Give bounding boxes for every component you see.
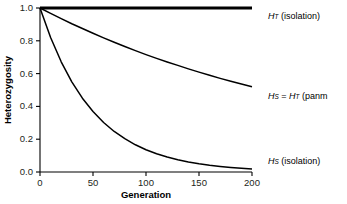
legend-item-hs-equals-ht-panmixia: HS = HT (panm <box>268 85 327 103</box>
curve-h-s-isolation <box>40 8 252 169</box>
y-tick-label: 1.0 <box>20 2 33 13</box>
y-tick-label: 0.0 <box>20 166 33 177</box>
legend-label-ht-isolation: HT (isolation) <box>268 11 320 21</box>
curve-h-s-h-t-panmixia <box>40 8 252 87</box>
x-axis-title: Generation <box>121 189 171 200</box>
y-tick-label: 0.8 <box>20 35 33 46</box>
data-curves <box>40 8 252 169</box>
x-tick-label: 100 <box>138 177 154 188</box>
y-tick-label: 0.6 <box>20 68 33 79</box>
y-tick-label: 0.4 <box>20 100 33 111</box>
legend-item-hs-isolation: HS (isolation) <box>268 150 320 168</box>
x-tick-label: 50 <box>88 177 99 188</box>
y-axis-ticks: 0.00.20.40.60.81.0 <box>20 2 40 177</box>
x-tick-label: 150 <box>191 177 207 188</box>
heterozygosity-decay-figure: 0.00.20.40.60.81.0 050100150200 Generati… <box>0 0 347 204</box>
y-tick-label: 0.2 <box>20 133 33 144</box>
y-axis-title: Heterozygosity <box>2 55 13 124</box>
legend-label-hs-equals-ht-panmixia: HS = HT (panm <box>268 91 327 101</box>
legend-item-ht-isolation: HT (isolation) <box>268 5 320 23</box>
x-tick-label: 0 <box>37 177 42 188</box>
legend-label-hs-isolation: HS (isolation) <box>268 156 320 166</box>
x-tick-label: 200 <box>244 177 260 188</box>
x-axis-ticks: 050100150200 <box>37 172 260 188</box>
